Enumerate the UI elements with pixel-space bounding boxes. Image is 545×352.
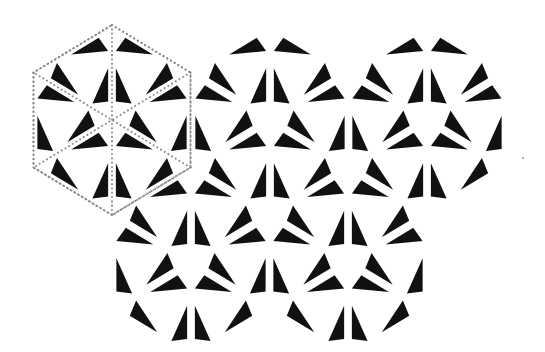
black-triangle	[229, 38, 266, 55]
black-triangle	[287, 301, 314, 333]
black-triangle	[461, 63, 488, 95]
black-triangle	[171, 116, 187, 151]
black-triangle	[287, 206, 314, 238]
black-triangle	[274, 38, 311, 55]
black-triangle	[386, 38, 423, 55]
black-triangle	[304, 63, 331, 95]
black-triangle	[382, 301, 409, 333]
black-triangle	[431, 163, 447, 198]
black-triangle	[274, 163, 290, 198]
black-triangle	[250, 163, 266, 198]
black-triangle	[352, 211, 368, 246]
black-triangle	[431, 68, 447, 103]
black-triangle	[209, 63, 236, 95]
black-triangle	[273, 258, 289, 293]
black-triangle	[329, 116, 345, 151]
black-triangle	[116, 68, 132, 103]
black-triangle	[146, 158, 173, 190]
black-triangle	[366, 158, 393, 190]
black-triangle	[51, 158, 78, 190]
black-triangle	[67, 111, 94, 143]
black-triangle	[195, 116, 211, 151]
black-triangle	[208, 253, 235, 285]
black-triangle	[225, 206, 252, 238]
black-triangle	[195, 211, 211, 246]
black-triangle	[116, 163, 132, 198]
black-triangle	[250, 68, 266, 103]
black-triangle	[250, 258, 266, 293]
hexagon-top-right	[352, 38, 501, 199]
black-triangle	[146, 253, 173, 285]
black-triangle	[366, 63, 393, 95]
black-triangle	[352, 116, 368, 151]
black-triangle	[365, 253, 392, 285]
black-triangle	[444, 111, 471, 143]
black-triangle	[171, 306, 187, 341]
black-triangle	[461, 158, 488, 190]
stray-speck	[522, 157, 524, 159]
black-triangle	[328, 211, 344, 246]
black-triangle	[382, 111, 409, 143]
black-triangle	[303, 253, 330, 285]
hexagon-pattern-figure	[0, 0, 545, 352]
black-triangle	[486, 116, 502, 151]
black-triangle	[407, 68, 423, 103]
hexagon-bottom-right	[273, 180, 422, 341]
black-triangle	[274, 68, 290, 103]
black-triangle	[225, 111, 252, 143]
black-triangle	[146, 63, 173, 95]
black-triangle	[51, 63, 78, 95]
black-triangle	[407, 258, 423, 293]
black-triangle	[116, 258, 132, 293]
hexagon-top-middle	[195, 38, 344, 199]
black-triangle	[195, 306, 211, 341]
hexagon-top-left	[37, 38, 186, 199]
black-triangle	[209, 158, 236, 190]
black-triangle	[382, 206, 409, 238]
black-triangle	[130, 206, 157, 238]
pattern-drawing	[0, 0, 545, 352]
black-triangle	[129, 111, 156, 143]
black-triangle	[171, 211, 187, 246]
black-triangle	[287, 111, 314, 143]
hexagon-bottom-left	[116, 180, 265, 341]
black-triangle	[92, 163, 108, 198]
black-triangle	[130, 301, 157, 333]
black-triangle	[116, 38, 153, 55]
dotted-construction-lines	[34, 25, 191, 215]
black-triangle	[328, 306, 344, 341]
black-triangle	[37, 116, 53, 151]
black-triangle	[92, 68, 108, 103]
black-triangle	[407, 163, 423, 198]
black-triangle	[431, 38, 468, 55]
black-triangle	[225, 301, 252, 333]
black-triangle	[352, 306, 368, 341]
hexagon-tiles	[37, 38, 501, 341]
